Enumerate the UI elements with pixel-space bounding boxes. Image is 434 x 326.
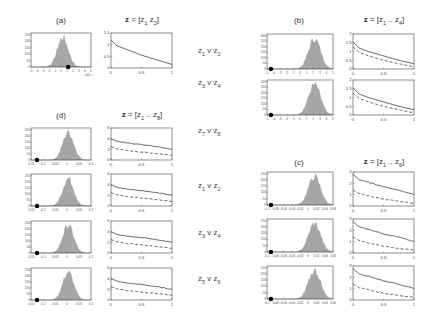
svg-text:200: 200 <box>261 45 267 49</box>
svg-text:50: 50 <box>26 292 30 296</box>
svg-text:0.05: 0.05 <box>76 255 82 259</box>
svg-text:-3: -3 <box>279 117 282 121</box>
curve-plot: 024600.51 <box>104 126 175 170</box>
svg-text:-0.1: -0.1 <box>40 208 46 212</box>
curve-plot: 00.511.5200.51 <box>346 32 417 79</box>
svg-text:250: 250 <box>261 266 267 270</box>
svg-text:200: 200 <box>25 180 31 184</box>
histogram-plot: 050100150200250300-5-4-3-2-1012345 <box>261 32 337 79</box>
panel-title-c: z = [z1 .. z6] <box>352 157 416 168</box>
observed-value-marker <box>269 297 273 301</box>
svg-text:-1: -1 <box>292 71 295 75</box>
svg-text:200: 200 <box>25 274 31 278</box>
observed-value-marker <box>35 251 39 255</box>
svg-text:4: 4 <box>84 69 86 73</box>
svg-text:1: 1 <box>349 239 352 244</box>
svg-text:0.5: 0.5 <box>104 54 110 59</box>
svg-text:50: 50 <box>262 61 266 65</box>
svg-text:150: 150 <box>261 50 267 54</box>
svg-text:0.02: 0.02 <box>313 254 319 258</box>
svg-text:-0.02: -0.02 <box>296 301 303 305</box>
svg-text:150: 150 <box>261 184 267 188</box>
svg-text:0.02: 0.02 <box>313 301 319 305</box>
svg-text:0.1: 0.1 <box>89 302 94 306</box>
histogram-plot: 050100150200250-0.15-0.1-0.0500.050.1 <box>25 266 95 310</box>
svg-text:0.5: 0.5 <box>139 70 145 75</box>
svg-text:4: 4 <box>107 182 110 187</box>
svg-text:1: 1 <box>171 208 174 213</box>
svg-text:0.5: 0.5 <box>139 208 145 213</box>
curve-plot: 024600.51 <box>104 219 175 263</box>
svg-text:100: 100 <box>261 56 267 60</box>
svg-text:-0.05: -0.05 <box>51 255 58 259</box>
svg-text:0.5: 0.5 <box>139 255 145 260</box>
svg-text:3: 3 <box>319 117 321 121</box>
svg-text:150: 150 <box>25 233 31 237</box>
svg-text:-0.02: -0.02 <box>296 207 303 211</box>
histogram-plot: 050100150200250-0.15-0.1-0.0500.050.1 <box>25 126 95 170</box>
svg-text:1.5: 1.5 <box>104 30 110 35</box>
svg-text:2: 2 <box>107 240 110 245</box>
svg-text:50: 50 <box>262 291 266 295</box>
svg-text:0.02: 0.02 <box>313 207 319 211</box>
svg-text:6: 6 <box>107 265 110 270</box>
svg-text:2: 2 <box>312 71 314 75</box>
svg-text:-0.15: -0.15 <box>27 162 34 166</box>
observed-value-marker <box>35 204 39 208</box>
svg-text:-0.04: -0.04 <box>288 301 295 305</box>
svg-text:200: 200 <box>25 39 31 43</box>
svg-text:2: 2 <box>312 117 314 121</box>
svg-text:0: 0 <box>352 71 355 76</box>
svg-text:0.5: 0.5 <box>139 302 145 307</box>
svg-text:-0.08: -0.08 <box>272 301 279 305</box>
curve-plot: 012300.51 <box>346 217 417 263</box>
svg-text:2: 2 <box>72 69 74 73</box>
svg-text:100: 100 <box>25 52 31 56</box>
svg-text:0.1: 0.1 <box>89 162 94 166</box>
svg-text:-0.02: -0.02 <box>296 254 303 258</box>
observed-value-marker <box>269 250 273 254</box>
svg-text:200: 200 <box>261 178 267 182</box>
svg-text:1: 1 <box>107 42 110 47</box>
svg-text:250: 250 <box>261 172 267 176</box>
svg-text:4: 4 <box>107 276 110 281</box>
svg-text:4: 4 <box>107 136 110 141</box>
svg-text:0.05: 0.05 <box>76 208 82 212</box>
svg-text:50: 50 <box>262 107 266 111</box>
curve-plot: 024600.51 <box>104 266 175 310</box>
svg-text:-0.15: -0.15 <box>27 302 34 306</box>
svg-text:-0.06: -0.06 <box>280 301 287 305</box>
svg-text:-4: -4 <box>272 117 275 121</box>
svg-text:100: 100 <box>25 286 31 290</box>
svg-text:0: 0 <box>60 69 62 73</box>
svg-text:0.5: 0.5 <box>139 162 145 167</box>
svg-text:0.5: 0.5 <box>381 71 387 76</box>
panel-label-d: (d) <box>51 111 71 120</box>
svg-text:250: 250 <box>261 85 267 89</box>
svg-text:0: 0 <box>352 117 355 122</box>
svg-text:3: 3 <box>349 216 352 221</box>
svg-text:150: 150 <box>25 280 31 284</box>
svg-text:-0.08: -0.08 <box>272 254 279 258</box>
histogram-plot: 050100150200250-0.1-0.08-0.06-0.04-0.020… <box>261 217 337 262</box>
svg-text:150: 150 <box>261 96 267 100</box>
svg-text:-3: -3 <box>42 69 45 73</box>
svg-text:0.06: 0.06 <box>330 207 336 211</box>
svg-text:0: 0 <box>110 208 113 213</box>
svg-text:-3: -3 <box>279 71 282 75</box>
svg-text:1: 1 <box>413 255 416 260</box>
svg-text:1: 1 <box>413 117 416 122</box>
svg-text:150: 150 <box>25 46 31 50</box>
svg-text:200: 200 <box>261 91 267 95</box>
svg-text:1: 1 <box>349 95 352 100</box>
svg-text:-0.08: -0.08 <box>272 207 279 211</box>
svg-text:0.5: 0.5 <box>381 117 387 122</box>
svg-text:4: 4 <box>107 229 110 234</box>
svg-text:50: 50 <box>26 152 30 156</box>
svg-text:2: 2 <box>349 77 352 82</box>
panel-title-b: z = [z1 .. z4] <box>352 15 416 26</box>
svg-text:x10⁻³: x10⁻³ <box>85 73 93 77</box>
svg-text:100: 100 <box>261 190 267 194</box>
svg-text:2: 2 <box>107 147 110 152</box>
svg-text:1: 1 <box>171 255 174 260</box>
